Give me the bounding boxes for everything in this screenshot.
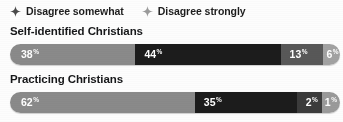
legend-label: Disagree strongly (158, 6, 246, 17)
segment-value: 6% (326, 49, 338, 60)
bar-segment[interactable]: 35% (195, 92, 297, 113)
four-point-star-icon (10, 6, 21, 17)
bar-segment[interactable]: 2% (297, 92, 322, 113)
stacked-bar-chart: Disagree somewhat Disagree strongly Self… (0, 0, 343, 122)
legend-item-disagree-strongly[interactable]: Disagree strongly (142, 6, 246, 17)
bar-segment[interactable]: 13% (281, 44, 324, 65)
legend-label: Disagree somewhat (26, 6, 124, 17)
bar-segment[interactable]: 44% (135, 44, 280, 65)
stacked-bar: 38% 44% 13% 6% (10, 44, 340, 65)
segment-value: 1% (325, 97, 337, 108)
row-title: Self-identified Christians (10, 26, 143, 38)
segment-value: 62% (21, 97, 39, 108)
bar-segment[interactable]: 38% (10, 44, 135, 65)
bar-segment[interactable]: 1% (322, 92, 340, 113)
chart-legend: Disagree somewhat Disagree strongly (10, 2, 246, 20)
segment-value: 35% (204, 97, 222, 108)
segment-value: 38% (21, 49, 39, 60)
segment-value: 2% (306, 97, 318, 108)
bar-segment[interactable]: 6% (323, 44, 340, 65)
four-point-star-icon (142, 6, 153, 17)
stacked-bar: 62% 35% 2% 1% (10, 92, 340, 113)
row-title: Practicing Christians (10, 74, 123, 86)
bar-segment[interactable]: 62% (10, 92, 195, 113)
segment-value: 13% (290, 49, 308, 60)
legend-item-disagree-somewhat[interactable]: Disagree somewhat (10, 6, 124, 17)
segment-value: 44% (144, 49, 162, 60)
